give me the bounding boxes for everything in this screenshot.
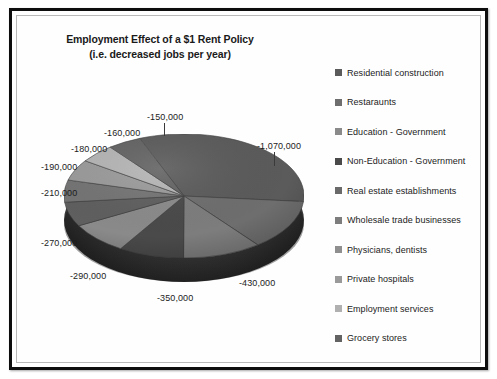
legend-item-label: Employment services xyxy=(347,304,433,314)
chart-plot-area: Employment Effect of a $1 Rent Policy (i… xyxy=(17,16,480,362)
pie-data-label: -1,070,000 xyxy=(257,141,301,151)
legend-item-label: Wholesale trade businesses xyxy=(347,215,461,225)
chart-inner-frame: Employment Effect of a $1 Rent Policy (i… xyxy=(16,15,481,363)
leader-line-150000 xyxy=(164,123,165,136)
pie-data-label: -270,000 xyxy=(41,238,77,248)
legend-item-label: Grocery stores xyxy=(347,333,407,343)
legend-item-label: Education - Government xyxy=(347,127,446,137)
legend-item[interactable]: Private hospitals xyxy=(335,265,485,295)
legend-item[interactable]: Education - Government xyxy=(335,117,485,147)
leader-line-1070000 xyxy=(274,152,275,166)
legend-item[interactable]: Residential construction xyxy=(335,58,485,88)
legend-color-swatch xyxy=(335,187,342,194)
legend-color-swatch xyxy=(335,305,342,312)
pie-data-label: -190,000 xyxy=(41,162,77,172)
legend-color-swatch xyxy=(335,217,342,224)
pie-data-label: -150,000 xyxy=(147,112,183,122)
legend-item[interactable]: Wholesale trade businesses xyxy=(335,206,485,236)
legend-item[interactable]: Restaraunts xyxy=(335,88,485,118)
chart-title-line-1: Employment Effect of a $1 Rent Policy xyxy=(66,33,254,45)
legend-color-swatch xyxy=(335,158,342,165)
legend-color-swatch xyxy=(335,276,342,283)
legend-item-label: Private hospitals xyxy=(347,274,414,284)
legend-color-swatch xyxy=(335,335,342,342)
legend-item-label: Non-Education - Government xyxy=(347,156,465,166)
legend-item-label: Residential construction xyxy=(347,68,444,78)
legend-color-swatch xyxy=(335,246,342,253)
legend-item[interactable]: Real estate establishments xyxy=(335,176,485,206)
legend-item-label: Real estate establishments xyxy=(347,186,456,196)
legend-item-label: Restaraunts xyxy=(347,97,396,107)
legend-item-label: Physicians, dentists xyxy=(347,245,427,255)
legend-color-swatch xyxy=(335,99,342,106)
chart-title-line-2: (i.e. decreased jobs per year) xyxy=(35,47,285,62)
pie-data-label: -210,000 xyxy=(41,188,77,198)
chart-legend: Residential constructionRestarauntsEduca… xyxy=(335,58,485,353)
legend-item[interactable]: Non-Education - Government xyxy=(335,147,485,177)
legend-item[interactable]: Grocery stores xyxy=(335,324,485,354)
pie-data-label: -430,000 xyxy=(239,278,275,288)
pie-data-label: -180,000 xyxy=(71,144,107,154)
legend-item[interactable]: Physicians, dentists xyxy=(335,235,485,265)
legend-color-swatch xyxy=(335,128,342,135)
pie-data-label: -160,000 xyxy=(104,128,140,138)
pie-data-label: -290,000 xyxy=(70,271,106,281)
legend-item[interactable]: Employment services xyxy=(335,294,485,324)
pie-data-label: -350,000 xyxy=(157,293,193,303)
chart-outer-frame: Employment Effect of a $1 Rent Policy (i… xyxy=(9,8,488,370)
page-title: Employment Effect of a $1 Rent Policy (i… xyxy=(35,32,285,62)
legend-color-swatch xyxy=(335,69,342,76)
